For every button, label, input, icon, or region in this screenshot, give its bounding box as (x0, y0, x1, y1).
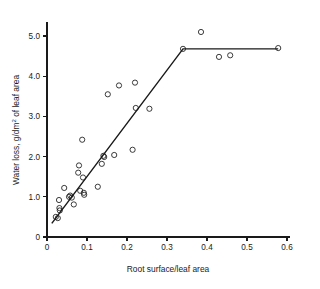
data-point (99, 161, 104, 166)
data-point (130, 147, 135, 152)
scatter-plot-svg: 01.02.03.04.05.0 00.10.20.30.40.50.6 Roo… (0, 0, 320, 289)
data-point (105, 92, 110, 97)
y-tick-label: 4.0 (29, 72, 41, 81)
x-axis-title: Root surface/leaf area (127, 264, 210, 274)
data-point (80, 137, 85, 142)
y-axis-title: Water loss, g/dm2 of leaf area (11, 75, 21, 185)
x-tick-label: 0.5 (241, 243, 253, 252)
data-point (116, 83, 121, 88)
data-point (71, 202, 76, 207)
y-tick-label: 1.0 (29, 193, 41, 202)
data-point (56, 197, 61, 202)
data-point (276, 45, 281, 50)
data-points-group (53, 29, 281, 220)
chart-figure: 01.02.03.04.05.0 00.10.20.30.40.50.6 Roo… (0, 0, 320, 289)
data-point (76, 163, 81, 168)
data-point (147, 106, 152, 111)
data-point (132, 80, 137, 85)
y-axis: 01.02.03.04.05.0 (29, 22, 47, 242)
data-point (216, 54, 221, 59)
x-tick-label: 0.1 (81, 243, 93, 252)
y-tick-label: 3.0 (29, 112, 41, 121)
x-tick-label: 0.3 (161, 243, 173, 252)
data-point (198, 29, 203, 34)
x-axis-ticks: 00.10.20.30.40.50.6 (45, 237, 293, 252)
y-tick-label: 0 (35, 233, 40, 242)
y-tick-label: 5.0 (29, 32, 41, 41)
data-point (133, 105, 138, 110)
x-tick-label: 0.4 (201, 243, 213, 252)
x-axis: 00.10.20.30.40.50.6 (45, 237, 293, 252)
x-tick-label: 0 (45, 243, 50, 252)
data-point (95, 184, 100, 189)
x-tick-label: 0.2 (121, 243, 133, 252)
data-point (76, 170, 81, 175)
y-tick-label: 2.0 (29, 153, 41, 162)
x-tick-label: 0.6 (281, 243, 293, 252)
data-point (228, 53, 233, 58)
data-point (112, 152, 117, 157)
y-axis-ticks: 01.02.03.04.05.0 (29, 32, 47, 242)
data-point (80, 175, 85, 180)
data-point (62, 185, 67, 190)
